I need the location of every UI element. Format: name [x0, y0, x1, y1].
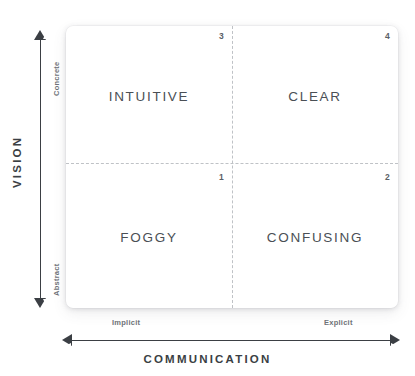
quadrant-number: 3 [219, 31, 224, 41]
y-axis-down-arrow-icon [34, 298, 46, 308]
x-axis-title: COMMUNICATION [0, 353, 415, 365]
y-axis-low-label: Abstract [52, 264, 61, 296]
x-axis-low-label: Implicit [112, 318, 140, 327]
y-axis-title: VISION [11, 136, 23, 188]
quadrant-number: 1 [219, 172, 224, 182]
quadrant-number: 2 [385, 172, 390, 182]
quadrant-clear[interactable]: 4 CLEAR [232, 26, 398, 167]
y-axis-up-arrow-inner [43, 33, 49, 39]
vision-communication-matrix: Concrete Abstract VISION 3 INTUITIVE 4 C… [0, 0, 415, 376]
quadrant-foggy[interactable]: 1 FOGGY [66, 167, 232, 308]
y-axis-high-label: Concrete [52, 61, 61, 96]
quadrant-label: CONFUSING [232, 230, 398, 245]
y-axis-line [40, 39, 41, 299]
quadrant-label: CLEAR [232, 89, 398, 104]
quadrant-label: FOGGY [66, 230, 232, 245]
x-axis-right-arrow-inner [391, 343, 397, 349]
x-axis-left-arrow-inner [65, 343, 71, 349]
x-axis-left-arrow-icon [62, 334, 72, 346]
x-axis-right-arrow-icon [390, 334, 400, 346]
matrix-plot-card: 3 INTUITIVE 4 CLEAR 1 FOGGY 2 CONFUSING [66, 26, 398, 308]
y-axis-down-arrow-inner [43, 299, 49, 305]
x-axis [62, 334, 400, 347]
quadrant-intuitive[interactable]: 3 INTUITIVE [66, 26, 232, 167]
quadrant-label: INTUITIVE [66, 89, 232, 104]
quadrant-confusing[interactable]: 2 CONFUSING [232, 167, 398, 308]
x-axis-line [71, 340, 391, 341]
y-axis [34, 30, 47, 308]
x-axis-high-label: Explicit [324, 318, 353, 327]
quadrant-number: 4 [385, 31, 390, 41]
y-axis-up-arrow-icon [34, 30, 46, 40]
